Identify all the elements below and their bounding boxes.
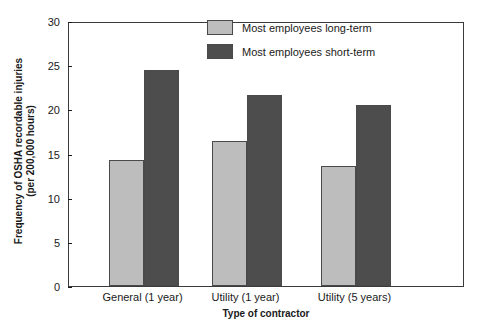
x-axis-title: Type of contractor xyxy=(68,308,464,320)
y-tick-mark xyxy=(68,22,72,23)
plot-area xyxy=(68,22,464,287)
y-tick-mark xyxy=(68,199,72,200)
y-tick-mark xyxy=(68,110,72,111)
legend-swatch-icon xyxy=(207,44,233,59)
y-tick-mark xyxy=(68,243,72,244)
y-tick-label: 30 xyxy=(38,17,60,28)
x-tick-label: Utility (5 years) xyxy=(318,291,391,303)
y-axis-title-line1: Frequency of OSHA recordable injuries xyxy=(13,58,25,244)
y-tick-label: 0 xyxy=(38,282,60,293)
y-tick-label: 20 xyxy=(38,105,60,116)
bar xyxy=(356,105,391,286)
bar xyxy=(109,160,144,286)
bar-chart-figure: Frequency of OSHA recordable injuries (p… xyxy=(0,0,479,330)
bar-group-container xyxy=(69,23,463,286)
legend-label: Most employees short-term xyxy=(242,46,375,58)
y-tick-label: 5 xyxy=(38,237,60,248)
y-axis-tick-labels: 051015202530 xyxy=(38,0,60,330)
y-axis-title: Frequency of OSHA recordable injuries (p… xyxy=(8,6,42,296)
y-tick-mark xyxy=(68,66,72,67)
bar xyxy=(212,141,247,286)
x-axis-tick-labels: General (1 year)Utility (1 year)Utility … xyxy=(68,291,464,305)
y-axis-title-line2: (per 200,000 hours) xyxy=(25,105,37,197)
y-tick-label: 25 xyxy=(38,61,60,72)
legend-item: Most employees long-term xyxy=(207,20,375,35)
y-tick-label: 10 xyxy=(38,193,60,204)
bar xyxy=(321,166,356,286)
y-tick-mark xyxy=(68,287,72,288)
legend-swatch-icon xyxy=(207,20,233,35)
y-tick-mark xyxy=(68,155,72,156)
x-tick-label: Utility (1 year) xyxy=(212,291,280,303)
bar xyxy=(144,70,179,286)
x-tick-label: General (1 year) xyxy=(102,291,182,303)
legend-label: Most employees long-term xyxy=(242,22,372,34)
legend-item: Most employees short-term xyxy=(207,44,375,59)
legend: Most employees long-termMost employees s… xyxy=(207,20,375,59)
y-tick-label: 15 xyxy=(38,149,60,160)
bar xyxy=(247,95,282,286)
